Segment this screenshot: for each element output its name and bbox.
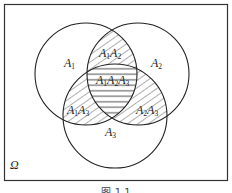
label-universe: Ω xyxy=(10,158,19,172)
label-a1a2a3: A1A2A3 xyxy=(95,73,130,88)
figure-caption: 图 1.1 xyxy=(0,184,232,193)
venn-diagram: A1 A2 A3 A1A2 A1A2A3 A1A3 A2A3 Ω xyxy=(0,0,232,193)
